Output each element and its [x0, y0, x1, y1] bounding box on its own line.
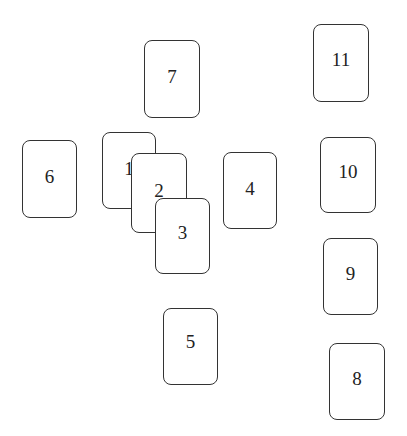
card-label: 11 [314, 50, 368, 69]
card-10[interactable]: 10 [320, 137, 376, 213]
card-6[interactable]: 6 [22, 140, 77, 218]
card-5[interactable]: 5 [163, 308, 218, 385]
card-label: 5 [164, 332, 217, 351]
card-label: 10 [321, 162, 375, 181]
card-11[interactable]: 11 [313, 24, 369, 102]
card-8[interactable]: 8 [329, 343, 385, 420]
card-label: 3 [156, 223, 209, 242]
card-4[interactable]: 4 [223, 152, 277, 229]
card-label: 4 [224, 179, 276, 198]
card-label: 6 [23, 167, 76, 186]
card-9[interactable]: 9 [323, 238, 378, 315]
card-label: 7 [145, 67, 199, 86]
card-label: 9 [324, 264, 377, 283]
card-label: 8 [330, 369, 384, 388]
card-3[interactable]: 3 [155, 198, 210, 274]
card-7[interactable]: 7 [144, 40, 200, 118]
